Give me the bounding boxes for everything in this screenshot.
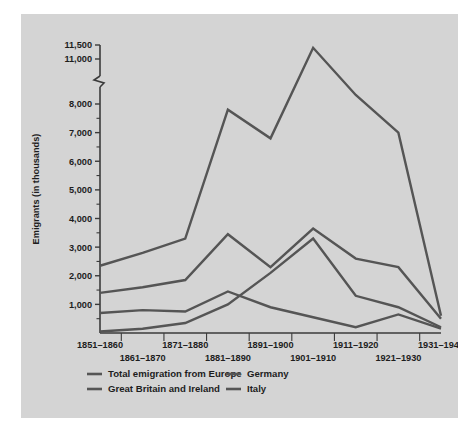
- series-lines: [100, 48, 441, 332]
- y-axis-title-text: Emigrants (in thousands): [31, 134, 41, 245]
- legend-label: Germany: [247, 368, 289, 379]
- x-tick-label: 1891–1900: [248, 340, 294, 350]
- chart-legend: Total emigration from EuropeGermanyGreat…: [87, 368, 289, 394]
- x-axis: 1851–18601861–18701871–18801881–18901891…: [77, 333, 458, 363]
- y-tick-label: 2,000: [69, 271, 92, 281]
- x-tick-label: 1871–1880: [162, 340, 208, 350]
- y-tick-label: 1,000: [69, 300, 92, 310]
- series-line-germany: [100, 291, 441, 328]
- y-tick-label: 3,000: [69, 243, 92, 253]
- x-tick-label: 1851–1860: [77, 340, 123, 350]
- legend-label: Total emigration from Europe: [108, 368, 242, 379]
- legend-label: Great Britain and Ireland: [108, 383, 220, 394]
- x-tick-label: 1931–1940: [418, 340, 458, 350]
- legend-label: Italy: [247, 383, 267, 394]
- x-tick-label: 1911–1920: [333, 340, 378, 350]
- y-axis-title: Emigrants (in thousands): [31, 134, 41, 245]
- y-tick-label: 4,000: [69, 214, 92, 224]
- x-tick-label: 1861–1870: [120, 353, 166, 363]
- x-tick-label: 1881–1890: [205, 353, 251, 363]
- line-chart-plot: 11,50011,0008,0007,0006,0005,0004,0003,0…: [21, 14, 458, 418]
- y-tick-label: 5,000: [69, 185, 92, 195]
- y-axis-break-zigzag: [94, 76, 104, 87]
- y-axis: 11,50011,0008,0007,0006,0005,0004,0003,0…: [64, 40, 104, 333]
- series-line-total-emigration-from-europe: [100, 48, 441, 316]
- chart-figure: 11,50011,0008,0007,0006,0005,0004,0003,0…: [0, 0, 475, 432]
- x-tick-label: 1901–1910: [290, 353, 336, 363]
- y-tick-label: 11,500: [64, 40, 92, 50]
- x-tick-label: 1921–1930: [375, 353, 421, 363]
- y-tick-label: 8,000: [69, 99, 92, 109]
- y-tick-label: 7,000: [69, 128, 92, 138]
- y-tick-label: 11,000: [64, 54, 92, 64]
- y-tick-label: 6,000: [69, 157, 92, 167]
- chart-panel: 11,50011,0008,0007,0006,0005,0004,0003,0…: [21, 14, 458, 418]
